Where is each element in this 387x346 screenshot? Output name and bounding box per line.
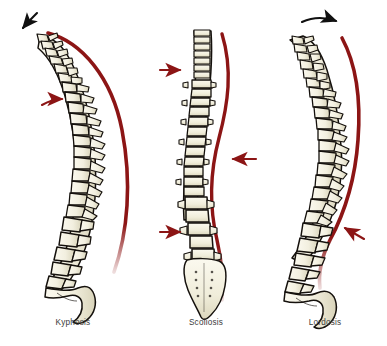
illustration-canvas: Kyphosis xyxy=(0,0,387,346)
lordosis-label: Lordosis xyxy=(309,318,342,327)
spine-conditions-figure: Kyphosis xyxy=(0,0,387,346)
scoliosis-label: Scoliosis xyxy=(189,318,223,327)
kyphosis-label: Kyphosis xyxy=(56,318,91,327)
scoliosis-cervical-vertebrae xyxy=(194,30,210,78)
